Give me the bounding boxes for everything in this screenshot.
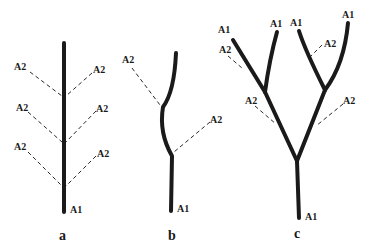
panel-c-right-left-twig [299,31,325,90]
panel-c-a1-label: A1 [218,24,230,35]
panel-a-a1-label: A1 [70,204,82,215]
panel-a-branch-right-2 [66,111,96,142]
panel-c-left-right-twig [265,32,277,92]
panel-b-a2-label: A2 [210,114,222,125]
panel-c-branch-upper-left [228,56,242,68]
panel-a-a2-label: A2 [96,103,108,114]
panel-b: A2 A2 A1 b [122,53,222,243]
panel-c-left-left-twig [233,40,265,92]
panel-c-caption: c [294,226,300,241]
panel-a-branch-left-1 [30,72,62,96]
panel-a-a2-label: A2 [16,102,28,113]
panel-c-main-axis [297,161,299,218]
panel-b-a2-label: A2 [122,54,134,65]
panel-c-right-branch [297,90,325,161]
panel-c-a2-label: A2 [219,44,231,55]
panel-b-main-axis [162,53,176,211]
panel-b-a1-label: A1 [177,203,189,214]
panel-a-caption: a [59,228,66,243]
panel-a-branch-left-3 [28,152,62,186]
panel-a-a2-label: A2 [14,141,26,152]
panel-b-branch-left [132,68,160,105]
panel-a-a2-label: A2 [14,61,26,72]
panel-c-a2-label: A2 [245,95,257,106]
panel-a: A2 A2 A2 A2 A2 A2 A1 a [14,43,109,243]
panel-a-a2-label: A2 [93,64,105,75]
panel-a-a2-label: A2 [97,148,109,159]
panel-c-a1-label: A1 [270,18,282,29]
panel-c-right-right-twig [325,23,348,90]
branching-diagram: A2 A2 A2 A2 A2 A2 A1 a A2 A2 A1 b A1 A1 … [0,0,368,248]
panel-c: A1 A1 A1 A1 A1 A2 A2 A2 A2 c [218,9,355,241]
panel-c-a2-label: A2 [343,95,355,106]
panel-c-a1-label: A1 [290,17,302,28]
panel-c-a2-label: A2 [324,38,336,49]
panel-c-a1-label: A1 [305,211,317,222]
panel-a-branch-left-2 [28,112,62,142]
panel-c-left-branch [265,92,297,161]
panel-c-branch-upper-right [311,45,322,56]
panel-a-branch-right-1 [66,73,92,96]
panel-b-branch-right [174,122,210,152]
panel-b-caption: b [168,228,176,243]
panel-c-a1-label: A1 [342,9,354,20]
panel-a-branch-right-3 [66,156,96,186]
